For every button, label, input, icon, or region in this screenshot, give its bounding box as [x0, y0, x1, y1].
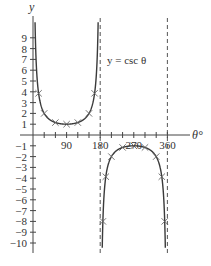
y-tick-label: −10 [10, 237, 28, 249]
tick-labels: 90180270360987654321−1−2−3−4−5−6−7−8−9−1… [10, 32, 176, 249]
x-tick-label: 360 [159, 139, 176, 151]
curve-branch [35, 22, 98, 124]
cross-marker [41, 110, 47, 116]
curve-branch [102, 146, 165, 248]
x-tick-label: 270 [126, 139, 143, 151]
x-axis-label: θ° [192, 128, 203, 142]
y-axis-label: y [28, 0, 35, 14]
function-label: y = csc θ [107, 54, 146, 66]
cross-marker [108, 153, 114, 159]
data-markers [35, 90, 168, 224]
x-tick-label: 90 [61, 139, 73, 151]
csc-chart: 90180270360987654321−1−2−3−4−5−6−7−8−9−1… [0, 0, 211, 266]
cross-marker [153, 153, 159, 159]
x-tick-label: 180 [92, 139, 109, 151]
y-tick-label: 1 [22, 118, 28, 130]
cross-marker [86, 110, 92, 116]
